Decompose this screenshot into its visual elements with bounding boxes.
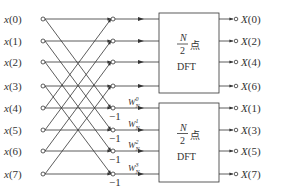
minus-one-label: −1 <box>109 110 121 122</box>
minus-one-label: −1 <box>109 132 121 144</box>
output-label: X(7) <box>240 168 261 181</box>
input-label: x(0) <box>3 13 22 26</box>
dft-suffix: 点 <box>190 130 200 141</box>
butterfly-node <box>111 17 115 21</box>
arrow-icon <box>138 60 144 64</box>
input-node <box>41 60 45 64</box>
input-label: x(4) <box>3 102 22 115</box>
frac-denominator: 2 <box>180 45 185 56</box>
twiddle-factor: W1N <box>128 118 141 131</box>
dft-box-top <box>159 13 219 93</box>
input-node <box>41 128 45 132</box>
output-node <box>234 60 238 64</box>
input-node <box>41 39 45 43</box>
input-node <box>41 106 45 110</box>
input-label: x(3) <box>3 80 22 93</box>
twiddle-factor: W3N <box>128 162 141 175</box>
arrow-icon <box>138 17 144 21</box>
input-label: x(6) <box>3 145 22 158</box>
output-label: X(1) <box>240 102 261 115</box>
butterfly-node <box>111 84 115 88</box>
twiddle-factor: W0N <box>128 96 141 109</box>
output-node <box>234 39 238 43</box>
output-node <box>234 149 238 153</box>
input-label: x(2) <box>3 56 22 69</box>
butterfly-node <box>111 60 115 64</box>
input-label: x(7) <box>3 168 22 181</box>
input-node <box>41 149 45 153</box>
output-label: X(3) <box>240 124 261 137</box>
frac-numerator: N <box>179 32 188 43</box>
input-label: x(5) <box>3 124 22 137</box>
output-label: X(2) <box>240 35 261 48</box>
arrow-icon <box>138 39 144 43</box>
output-label: X(4) <box>240 56 261 69</box>
output-label: X(0) <box>240 13 261 26</box>
output-node <box>234 106 238 110</box>
frac-numerator: N <box>179 122 188 133</box>
output-node <box>234 17 238 21</box>
dft-box-bottom <box>159 103 219 182</box>
fft-butterfly-diagram: x(0)x(1)x(2)x(3)x(4)x(5)x(6)x(7)−1W0N−1W… <box>0 0 284 193</box>
frac-denominator: 2 <box>180 135 185 146</box>
input-label: x(1) <box>3 35 22 48</box>
butterfly-node <box>111 39 115 43</box>
output-label: X(6) <box>240 80 261 93</box>
arrow-icon <box>138 84 144 88</box>
output-node <box>234 84 238 88</box>
minus-one-label: −1 <box>109 153 121 165</box>
output-node <box>234 128 238 132</box>
minus-one-label: −1 <box>109 176 121 188</box>
twiddle-factor: W2N <box>128 139 141 152</box>
input-node <box>41 172 45 176</box>
input-node <box>41 17 45 21</box>
output-node <box>234 172 238 176</box>
dft-label: DFT <box>177 151 196 162</box>
output-label: X(5) <box>240 145 261 158</box>
dft-suffix: 点 <box>190 40 200 51</box>
input-node <box>41 84 45 88</box>
dft-label: DFT <box>177 61 196 72</box>
